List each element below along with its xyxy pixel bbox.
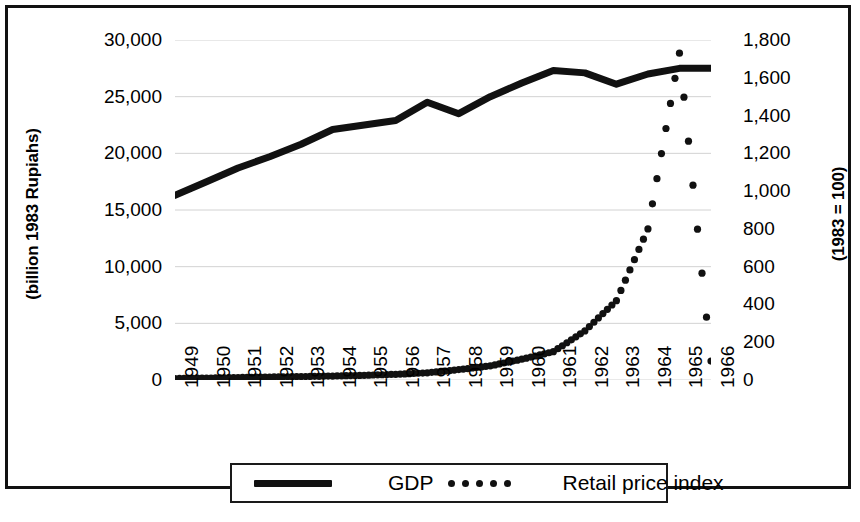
chart-svg bbox=[175, 40, 711, 380]
left-axis-tick: 25,000 bbox=[44, 87, 162, 106]
data-point bbox=[626, 266, 633, 273]
right-axis-tick: 800 bbox=[743, 219, 860, 238]
data-point bbox=[635, 246, 642, 253]
x-axis-tick: 1957 bbox=[434, 346, 453, 388]
data-point bbox=[698, 270, 705, 277]
gdp-line-swatch-icon bbox=[254, 480, 332, 487]
data-point bbox=[680, 94, 687, 101]
x-axis-tick: 1949 bbox=[182, 346, 201, 388]
x-axis-tick: 1961 bbox=[560, 346, 579, 388]
x-axis-tick: 1962 bbox=[592, 346, 611, 388]
x-axis-tick: 1965 bbox=[686, 346, 705, 388]
right-axis-tick: 1,400 bbox=[743, 106, 860, 125]
x-axis-tick: 1964 bbox=[655, 346, 674, 388]
gridlines bbox=[175, 40, 711, 380]
data-point bbox=[644, 225, 651, 232]
left-axis-tick: 15,000 bbox=[44, 200, 162, 219]
chart-frame: (billion 1983 Rupiahs) (1983 = 100) 05,0… bbox=[5, 5, 851, 489]
left-axis-tick: 10,000 bbox=[44, 257, 162, 276]
data-point bbox=[703, 314, 710, 321]
data-point bbox=[676, 50, 683, 57]
left-axis-tick: 20,000 bbox=[44, 143, 162, 162]
data-point bbox=[694, 226, 701, 233]
x-axis-tick: 1954 bbox=[340, 346, 359, 388]
right-axis-tick: 400 bbox=[743, 294, 860, 313]
left-axis-title: (billion 1983 Rupiahs) bbox=[23, 94, 43, 334]
left-axis-tick: 5,000 bbox=[44, 313, 162, 332]
x-axis-tick: 1955 bbox=[371, 346, 390, 388]
plot-area bbox=[175, 40, 711, 380]
x-axis-tick: 1951 bbox=[245, 346, 264, 388]
right-axis-tick: 1,000 bbox=[743, 181, 860, 200]
x-axis-tick: 1956 bbox=[403, 346, 422, 388]
data-point bbox=[671, 75, 678, 82]
x-axis-tick: 1960 bbox=[529, 346, 548, 388]
x-axis-tick: 1958 bbox=[466, 346, 485, 388]
gdp-line bbox=[175, 68, 711, 195]
data-point bbox=[707, 358, 711, 365]
x-axis-tick: 1966 bbox=[718, 346, 737, 388]
data-point bbox=[667, 100, 674, 107]
right-axis-tick: 200 bbox=[743, 332, 860, 351]
dotted-line-swatch-icon bbox=[448, 480, 511, 487]
right-axis-tick: 0 bbox=[743, 370, 860, 389]
x-axis-tick: 1963 bbox=[623, 346, 642, 388]
legend-label-retail-price-index: Retail price index bbox=[563, 471, 724, 495]
right-axis-tick: 600 bbox=[743, 257, 860, 276]
x-axis-tick: 1950 bbox=[214, 346, 233, 388]
x-axis-tick: 1959 bbox=[497, 346, 516, 388]
chart-legend: GDP Retail price index bbox=[230, 463, 668, 503]
data-point bbox=[622, 277, 629, 284]
x-axis-tick: 1952 bbox=[277, 346, 296, 388]
data-point bbox=[653, 175, 660, 182]
right-axis-tick: 1,800 bbox=[743, 30, 860, 49]
data-point bbox=[649, 200, 656, 207]
right-axis-tick: 1,600 bbox=[743, 68, 860, 87]
data-point bbox=[658, 150, 665, 157]
retail-price-index-dots bbox=[175, 50, 711, 380]
data-point bbox=[689, 182, 696, 189]
legend-label-gdp: GDP bbox=[388, 471, 434, 495]
right-axis-tick: 1,200 bbox=[743, 143, 860, 162]
left-axis-tick: 30,000 bbox=[44, 30, 162, 49]
left-axis-tick: 0 bbox=[44, 370, 162, 389]
data-point bbox=[631, 256, 638, 263]
data-point bbox=[640, 236, 647, 243]
data-point bbox=[617, 287, 624, 294]
data-point bbox=[685, 138, 692, 145]
x-axis-tick: 1953 bbox=[308, 346, 327, 388]
data-point bbox=[613, 297, 620, 304]
data-point bbox=[662, 125, 669, 132]
